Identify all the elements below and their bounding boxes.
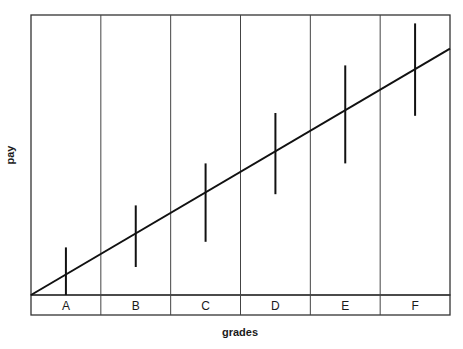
y-axis-label: pay	[4, 145, 16, 165]
grade-label-b: B	[132, 299, 140, 313]
x-axis-label: grades	[222, 326, 258, 338]
grade-label-d: D	[271, 299, 280, 313]
grade-dividers	[101, 15, 380, 315]
grade-label-f: F	[411, 299, 418, 313]
pay-grade-diagram: ABCDEF grades pay	[0, 0, 463, 349]
grade-label-a: A	[62, 299, 70, 313]
grade-label-c: C	[201, 299, 210, 313]
grade-label-e: E	[341, 299, 349, 313]
